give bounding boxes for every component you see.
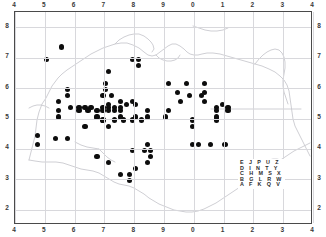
data-point-dot [199,93,204,98]
axis-tick-label-x: 1 [217,2,229,9]
axis-tick-label-y: 3 [2,175,12,182]
gridline-vertical [164,12,165,223]
axis-tick-label-y: 3 [314,175,324,182]
data-point-dot [214,108,219,113]
axis-tick-label-x: 9 [157,227,169,234]
data-point-dot [208,142,213,147]
data-point-dot [118,172,123,177]
axis-tick-label-x: 8 [127,227,139,234]
data-point-dot [184,81,189,86]
data-point-dot [56,108,61,113]
data-point-dot [106,160,111,165]
axis-tick-label-y: 2 [2,205,12,212]
axis-tick-label-x: 2 [246,227,258,234]
data-point-dot [202,99,207,104]
gridline-vertical [283,12,284,223]
data-point-dot [56,99,61,104]
legend-row: A F K Q V [240,182,283,188]
axis-tick-label-y: 7 [314,53,324,60]
data-point-dot [65,93,70,98]
gridline-vertical [194,12,195,223]
data-point-dot [53,136,58,141]
gridline-vertical [75,12,76,223]
data-point-dot [145,160,150,165]
data-point-dot [145,108,150,113]
distribution-map-figure: E J P U Z D I N T Y C H M S X B G L R W … [0,0,326,237]
data-point-dot [65,136,70,141]
data-point-dot [94,108,99,113]
axis-tick-label-x: 0 [187,227,199,234]
axis-tick-label-x: 3 [276,2,288,9]
gridline-horizontal [15,210,311,211]
gridline-vertical [224,12,225,223]
data-point-dot [35,142,40,147]
axis-tick-label-y: 7 [2,53,12,60]
data-point-dot [118,99,123,104]
axis-tick-label-x: 5 [38,2,50,9]
axis-tick-label-y: 8 [314,23,324,30]
axis-tick-label-y: 4 [314,144,324,151]
axis-tick-label-x: 7 [97,227,109,234]
data-point-dot [178,99,183,104]
axis-tick-label-x: 3 [276,227,288,234]
data-point-dot [225,108,230,113]
national-grid-legend: E J P U Z D I N T Y C H M S X B G L R W … [238,159,285,189]
axis-tick-label-x: 1 [217,227,229,234]
data-point-dot [76,108,81,113]
data-point-dot [94,154,99,159]
axis-tick-label-y: 6 [314,84,324,91]
axis-tick-label-x: 6 [68,227,80,234]
axis-tick-label-x: 4 [8,2,20,9]
gridline-vertical [45,12,46,223]
data-point-dot [127,172,132,177]
gridline-horizontal [15,58,311,59]
axis-tick-label-x: 0 [187,2,199,9]
axis-tick-label-x: 9 [157,2,169,9]
axis-tick-label-x: 5 [38,227,50,234]
axis-tick-label-x: 8 [127,2,139,9]
data-point-dot [59,44,64,49]
gridline-vertical [253,12,254,223]
axis-tick-label-y: 6 [2,84,12,91]
gridline-horizontal [15,27,311,28]
axis-tick-label-x: 7 [97,2,109,9]
axis-tick-label-x: 6 [68,2,80,9]
gridline-vertical [134,12,135,223]
axis-tick-label-x: 4 [8,227,20,234]
data-point-dot [82,124,87,129]
data-point-dot [202,81,207,86]
gridline-vertical [104,12,105,223]
gridline-horizontal [15,149,311,150]
data-point-dot [196,142,201,147]
data-point-dot [148,154,153,159]
axis-tick-label-y: 5 [314,114,324,121]
data-point-dot [145,142,150,147]
data-point-dot [124,102,129,107]
gridline-horizontal [15,119,311,120]
gridline-vertical [15,12,16,223]
data-point-dot [166,81,171,86]
data-point-dot [109,93,114,98]
axis-tick-label-x: 4 [306,2,318,9]
axis-tick-label-y: 5 [2,114,12,121]
plot-frame [14,11,312,224]
data-point-dot [85,108,90,113]
axis-tick-label-y: 2 [314,205,324,212]
gridline-horizontal [15,88,311,89]
data-point-dot [136,63,141,68]
data-point-dot [112,108,117,113]
axis-tick-label-y: 4 [2,144,12,151]
data-point-dot [35,133,40,138]
data-point-dot [106,108,111,113]
data-point-dot [175,90,180,95]
axis-tick-label-x: 4 [306,227,318,234]
data-point-dot [187,93,192,98]
data-point-dot [106,69,111,74]
data-point-dot [166,108,171,113]
data-point-dot [118,108,123,113]
axis-tick-label-x: 2 [246,2,258,9]
data-point-dot [68,105,73,110]
data-point-dot [106,124,111,129]
axis-tick-label-y: 8 [2,23,12,30]
